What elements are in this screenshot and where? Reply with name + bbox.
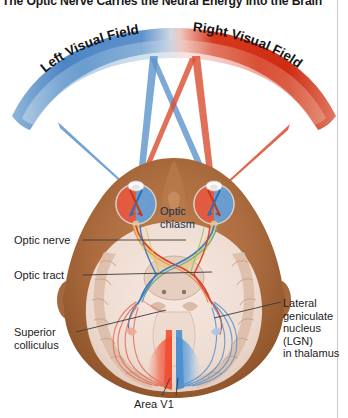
label-optic-tract: Optic tract xyxy=(14,269,64,282)
label-optic-nerve: Optic nerve xyxy=(14,234,70,247)
figure-container: The Optic Nerve Carries the Neural Energ… xyxy=(0,0,348,418)
label-superior-colliculus: Superior colliculus xyxy=(14,326,59,351)
visual-field-arc xyxy=(12,28,336,130)
label-optic-chiasm: Optic chiasm xyxy=(160,205,195,230)
head-cross-section xyxy=(57,158,291,398)
label-area-v1: Area V1 xyxy=(134,398,174,411)
label-lateral-geniculate-nucleus: Lateral geniculate nucleus (LGN) in thal… xyxy=(283,297,339,360)
